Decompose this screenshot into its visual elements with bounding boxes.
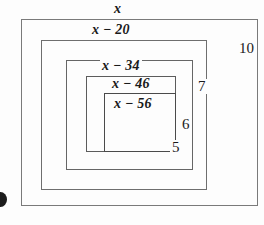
gap-label-10: 10 bbox=[237, 41, 256, 56]
label-x-minus-56: x − 56 bbox=[112, 97, 154, 111]
gap-label-7: 7 bbox=[196, 79, 208, 94]
label-x-minus-20: x − 20 bbox=[90, 23, 132, 37]
nested-rectangles-figure: x x − 20 x − 34 x − 46 x − 56 10 7 6 5 bbox=[0, 0, 264, 225]
label-x: x bbox=[112, 2, 123, 16]
edge-blob-marker bbox=[0, 192, 7, 207]
label-x-minus-46: x − 46 bbox=[110, 77, 152, 91]
gap-label-5: 5 bbox=[170, 140, 182, 155]
gap-label-6: 6 bbox=[180, 117, 192, 132]
label-x-minus-34: x − 34 bbox=[100, 59, 142, 73]
